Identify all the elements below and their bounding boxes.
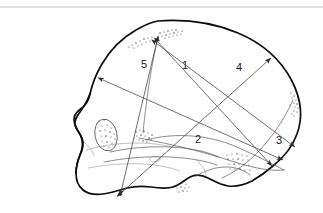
skull-diagram-svg: 1 2 3 4 5 [0, 0, 323, 213]
stipple-patches-group [98, 29, 298, 192]
measurement-labels-group: 1 2 3 4 5 [141, 58, 282, 146]
coronal-suture-patch [128, 36, 152, 48]
measurement-label-1: 1 [182, 59, 188, 71]
coronal-suture [143, 42, 157, 133]
measurement-label-3: 3 [276, 134, 282, 146]
measurement-label-2: 2 [195, 133, 201, 145]
basal-foramen-patch [174, 182, 189, 192]
measurement-line-3[interactable] [156, 43, 295, 147]
figure-root: 1 2 3 4 5 [0, 0, 323, 213]
skull-outline-group [74, 21, 301, 195]
skull-contour [74, 21, 301, 195]
zygomatic-arch-upper [110, 147, 219, 157]
measurement-label-5: 5 [141, 58, 147, 70]
measurement-line-2[interactable] [103, 80, 283, 160]
occipital-base-line [196, 167, 250, 176]
palate-line [88, 164, 180, 171]
measurement-arrows-group [103, 41, 295, 196]
measurement-line-5[interactable] [120, 41, 157, 196]
lambdoid-suture [222, 100, 293, 178]
facial-profile [75, 94, 90, 173]
measurement-label-4: 4 [236, 61, 242, 73]
squamosal-suture [146, 136, 284, 170]
bregma-suture-patch [159, 29, 182, 38]
